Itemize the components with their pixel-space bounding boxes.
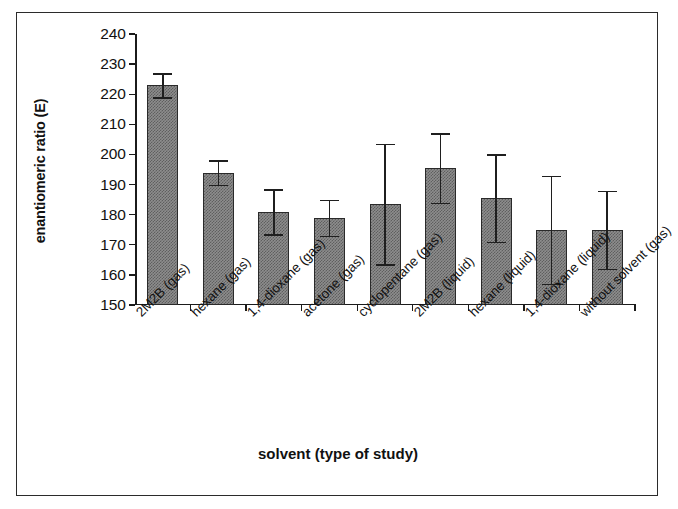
error-bar-cap-upper xyxy=(264,189,283,191)
y-tick xyxy=(129,154,135,155)
error-bar-cap-lower xyxy=(487,242,506,244)
y-tick xyxy=(129,94,135,95)
y-tick-label: 150 xyxy=(100,296,126,314)
y-tick-label: 220 xyxy=(100,85,126,103)
error-bar-cap-lower xyxy=(209,185,228,187)
y-tick xyxy=(129,184,135,185)
error-bar-line xyxy=(551,176,553,284)
error-bar-cap-upper xyxy=(431,133,450,135)
error-bar-line xyxy=(384,144,386,264)
error-bar-cap-upper xyxy=(487,154,506,156)
error-bar-cap-lower xyxy=(376,264,395,266)
y-tick xyxy=(129,214,135,215)
y-axis-line xyxy=(135,34,137,305)
y-tick-label: 210 xyxy=(100,115,126,133)
error-bar-cap-upper xyxy=(598,191,617,193)
x-axis-title: solvent (type of study) xyxy=(17,445,659,462)
error-bar-cap-lower xyxy=(264,234,283,236)
error-bar-cap-lower xyxy=(431,203,450,205)
y-axis-title: enantiomeric ratio (E) xyxy=(32,66,48,276)
y-tick-label: 230 xyxy=(100,55,126,73)
error-bar-cap-lower xyxy=(320,236,339,238)
y-tick xyxy=(129,274,135,275)
x-tick xyxy=(634,304,635,311)
y-tick xyxy=(129,304,135,305)
error-bar-cap-upper xyxy=(542,176,561,178)
plot-area: 150160170180190200210220230240 xyxy=(135,34,635,305)
figure-frame: enantiomeric ratio (E) 15016017018019020… xyxy=(16,12,658,496)
error-bar-line xyxy=(606,191,608,269)
error-bar-cap-lower xyxy=(598,269,617,271)
error-bar-line xyxy=(218,160,220,184)
y-tick-label: 170 xyxy=(100,236,126,254)
error-bar-line xyxy=(273,189,275,234)
error-bar-line xyxy=(329,200,331,236)
y-tick xyxy=(129,63,135,64)
y-tick xyxy=(129,124,135,125)
y-tick xyxy=(129,244,135,245)
y-tick xyxy=(129,33,135,34)
error-bar-line xyxy=(495,154,497,241)
error-bar-line xyxy=(162,73,164,97)
error-bar-cap-upper xyxy=(376,144,395,146)
error-bar-line xyxy=(440,133,442,202)
y-tick-label: 180 xyxy=(100,206,126,224)
error-bar-cap-upper xyxy=(209,160,228,162)
y-tick-label: 160 xyxy=(100,266,126,284)
y-tick-label: 240 xyxy=(100,25,126,43)
y-tick-label: 200 xyxy=(100,145,126,163)
y-tick-label: 190 xyxy=(100,176,126,194)
error-bar-cap-upper xyxy=(320,200,339,202)
error-bar-cap-upper xyxy=(153,73,172,75)
error-bar-cap-lower xyxy=(153,97,172,99)
